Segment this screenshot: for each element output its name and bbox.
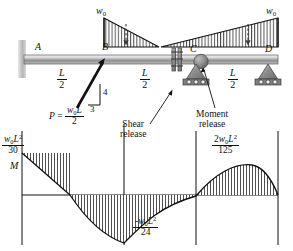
shear-release-annotation: Shear release [120, 120, 146, 140]
roller-support-D [255, 64, 281, 85]
point-load-equation: P = w0L 2 [49, 106, 84, 127]
moment-release-leader [201, 67, 215, 108]
distributed-load-right [160, 16, 280, 49]
beam-member [24, 55, 278, 64]
moment-value-CD: 2w0L2 125 [212, 134, 239, 156]
moment-value-A: w0L2 30 [2, 134, 24, 156]
shear-release-leader [150, 90, 173, 125]
slope-run-label: 3 [90, 105, 95, 114]
load-label-right-w0: w0 [266, 6, 276, 17]
moment-value-B: -w0L2 24 [133, 216, 158, 238]
load-label-left-w0: w0 [96, 6, 106, 17]
joint-label-B: B [102, 42, 108, 52]
span-dimension-BC: L 2 [140, 68, 150, 90]
span-dimension-AB: L 2 [57, 68, 67, 90]
point-load-arrow [77, 58, 105, 108]
joint-label-A: A [35, 42, 41, 52]
slope-rise-label: 4 [103, 88, 108, 97]
moment-release-annotation: Moment release [196, 110, 228, 130]
moment-axis-label: M [10, 161, 18, 171]
beam-and-moment-diagram-svg [0, 0, 293, 251]
distributed-load-left [104, 16, 160, 49]
figure-root: w0 w0 A B C D L 2 L 2 L 2 4 3 P = w0L 2 [0, 0, 293, 251]
joint-label-D: D [265, 44, 272, 54]
span-dimension-CD: L 2 [228, 68, 238, 90]
joint-label-C: C [190, 44, 197, 54]
